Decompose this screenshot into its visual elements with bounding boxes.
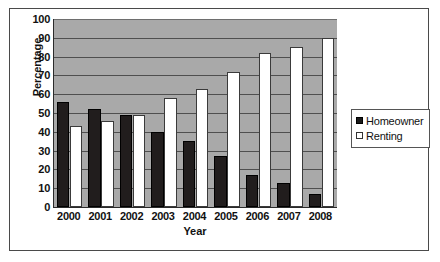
bar-homeowner-2003[interactable] — [151, 132, 164, 207]
filled-square-icon — [356, 117, 363, 124]
x-axis-tick-label: 2000 — [53, 210, 84, 222]
bar-renting-2006[interactable] — [259, 53, 272, 207]
bar-group — [211, 19, 242, 207]
y-axis-tick-label: 100 — [24, 13, 50, 25]
y-axis-tick-label: 80 — [24, 51, 50, 63]
bar-homeowner-2007[interactable] — [277, 183, 290, 207]
bar-renting-2004[interactable] — [196, 89, 209, 207]
x-axis-tick-label: 2001 — [84, 210, 115, 222]
legend-item-label: Renting — [366, 130, 403, 142]
chart-legend: Homeowner Renting — [351, 109, 430, 148]
y-axis-tick-label: 20 — [24, 163, 50, 175]
bars-layer — [54, 19, 337, 207]
chart-frame: Percentage 1009080706050403020100 200020… — [9, 8, 429, 251]
x-axis-tick-label: 2008 — [305, 210, 336, 222]
bar-group — [85, 19, 116, 207]
x-axis-tick-labels: 200020012002200320042005200620072008 — [53, 210, 337, 226]
y-axis-tick-labels: 1009080706050403020100 — [24, 19, 50, 207]
y-axis-tick-label: 60 — [24, 88, 50, 100]
legend-item-homeowner[interactable]: Homeowner — [356, 113, 424, 128]
x-axis-tick-label: 2006 — [242, 210, 273, 222]
x-axis-title: Year — [53, 225, 337, 237]
bar-homeowner-2002[interactable] — [120, 115, 133, 207]
legend-item-label: Homeowner — [366, 115, 424, 127]
bar-group — [117, 19, 148, 207]
bar-group — [243, 19, 274, 207]
plot-area — [53, 19, 337, 208]
y-axis-tick-label: 50 — [24, 107, 50, 119]
y-axis-tick-label: 30 — [24, 145, 50, 157]
y-axis-tick-label: 0 — [24, 201, 50, 213]
bar-homeowner-2005[interactable] — [214, 156, 227, 207]
y-axis-tick-label: 90 — [24, 32, 50, 44]
bar-renting-2001[interactable] — [101, 121, 114, 207]
x-axis-tick-label: 2002 — [116, 210, 147, 222]
bar-group — [148, 19, 179, 207]
x-axis-tick-label: 2004 — [179, 210, 210, 222]
bar-renting-2003[interactable] — [164, 98, 177, 207]
bar-homeowner-2006[interactable] — [246, 175, 259, 207]
hollow-square-icon — [356, 132, 363, 139]
y-axis-tick-label: 10 — [24, 182, 50, 194]
bar-homeowner-2004[interactable] — [183, 141, 196, 207]
bar-renting-2007[interactable] — [290, 47, 303, 207]
y-axis-tick-label: 40 — [24, 126, 50, 138]
bar-renting-2005[interactable] — [227, 72, 240, 207]
bar-group — [306, 19, 337, 207]
bar-renting-2002[interactable] — [133, 115, 146, 207]
x-axis-tick-label: 2005 — [210, 210, 241, 222]
bar-group — [54, 19, 85, 207]
bar-group — [180, 19, 211, 207]
bar-group — [274, 19, 305, 207]
bar-homeowner-2000[interactable] — [57, 102, 70, 207]
y-axis-tick-label: 70 — [24, 69, 50, 81]
legend-item-renting[interactable]: Renting — [356, 128, 424, 143]
x-axis-tick-label: 2003 — [147, 210, 178, 222]
bar-renting-2008[interactable] — [322, 38, 335, 207]
bar-homeowner-2008[interactable] — [309, 194, 322, 207]
bar-renting-2000[interactable] — [70, 126, 83, 207]
bar-homeowner-2001[interactable] — [88, 109, 101, 207]
x-axis-tick-label: 2007 — [273, 210, 304, 222]
